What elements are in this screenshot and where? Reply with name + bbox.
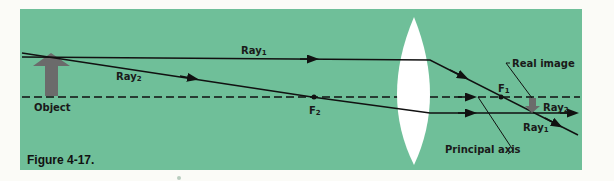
label-real-image: Real image <box>512 58 575 69</box>
ray-diagram: Ray1 Ray2 Object F2 F1 Real image Ray2 R… <box>0 0 614 181</box>
ray-1 <box>22 57 578 135</box>
label-principal-axis: Principal axis <box>445 144 521 155</box>
label-ray1-top: Ray1 <box>241 45 267 57</box>
real-image-arrow-icon <box>525 98 540 113</box>
focal-point-f1 <box>499 95 504 100</box>
label-ray2-right: Ray2 <box>543 102 569 114</box>
label-f2: F2 <box>309 105 321 117</box>
label-object: Object <box>34 102 71 113</box>
label-f1: F1 <box>498 83 510 95</box>
figure-caption: Figure 4-17. <box>27 153 94 167</box>
convex-lens <box>397 17 430 165</box>
label-ray1-right: Ray1 <box>523 122 549 134</box>
ray-2 <box>22 53 575 113</box>
label-ray2-left: Ray2 <box>116 71 142 83</box>
decorative-dot <box>177 176 181 180</box>
focal-point-f2 <box>312 95 317 100</box>
